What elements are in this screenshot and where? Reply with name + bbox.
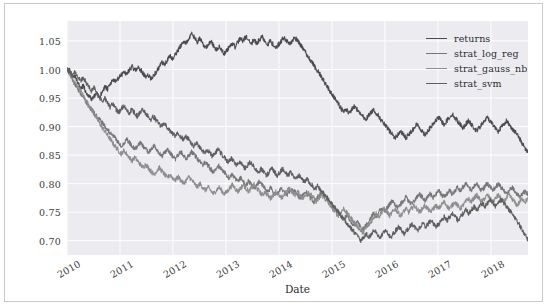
- y-tick-label: 1.00: [9, 64, 61, 75]
- x-tick-label: 2015: [320, 258, 347, 280]
- legend-item[interactable]: strat_gauss_nb: [426, 61, 527, 75]
- x-tick-label: 2018: [479, 258, 506, 280]
- y-tick-label: 0.80: [9, 178, 61, 189]
- series-line: [67, 68, 528, 243]
- legend-item[interactable]: strat_log_reg: [426, 46, 527, 60]
- legend-line-icon: [426, 68, 447, 69]
- legend-item[interactable]: returns: [426, 31, 527, 45]
- legend-line-icon: [426, 38, 447, 39]
- series-line: [67, 69, 528, 234]
- legend-item-label: returns: [454, 33, 490, 44]
- y-tick-label: 0.75: [9, 207, 61, 218]
- legend-line-icon: [426, 83, 447, 84]
- figure-frame: 1.051.000.950.900.850.800.750.70 2010201…: [4, 3, 543, 302]
- x-tick-label: 2012: [161, 258, 188, 280]
- figure: 1.051.000.950.900.850.800.750.70 2010201…: [0, 0, 547, 306]
- legend-line-icon: [426, 53, 447, 54]
- y-tick-label: 1.05: [9, 36, 61, 47]
- y-tick-label: 0.70: [9, 235, 61, 246]
- x-tick-label: 2017: [426, 258, 453, 280]
- legend-item[interactable]: strat_svm: [426, 76, 527, 90]
- y-tick-label: 0.95: [9, 93, 61, 104]
- x-axis-label: Date: [67, 283, 528, 295]
- legend: returnsstrat_log_regstrat_gauss_nbstrat_…: [424, 29, 531, 93]
- y-tick-label: 0.90: [9, 121, 61, 132]
- x-tick-label: 2010: [55, 258, 82, 280]
- y-axis-ticks: 1.051.000.950.900.850.800.750.70: [5, 21, 61, 255]
- x-tick-label: 2016: [373, 258, 400, 280]
- legend-item-label: strat_svm: [454, 78, 502, 89]
- legend-item-label: strat_log_reg: [454, 48, 519, 59]
- x-tick-label: 2014: [267, 258, 294, 280]
- x-tick-label: 2011: [108, 258, 135, 280]
- y-tick-label: 0.85: [9, 150, 61, 161]
- legend-item-label: strat_gauss_nb: [454, 63, 527, 74]
- x-tick-label: 2013: [214, 258, 241, 280]
